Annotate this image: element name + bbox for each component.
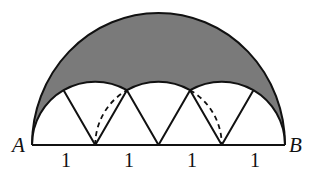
segment-label-2: 1: [124, 149, 134, 171]
point-label-b: B: [289, 133, 302, 157]
shaded-region: [32, 13, 285, 145]
zigzag-segments: [64, 90, 254, 145]
point-label-a: A: [10, 133, 25, 157]
segment-label-4: 1: [250, 149, 260, 171]
segment-label-1: 1: [61, 149, 71, 171]
segment-label-3: 1: [187, 149, 197, 171]
geometry-diagram: A B 1 1 1 1: [0, 0, 321, 173]
